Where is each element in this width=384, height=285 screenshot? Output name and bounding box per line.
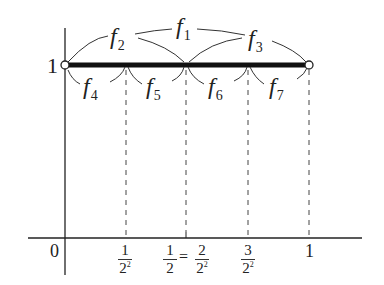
arc-f1-left xyxy=(135,29,172,34)
arc-f6-right xyxy=(234,67,247,81)
arc-f7-left xyxy=(250,67,264,84)
label-f1: f1 xyxy=(176,14,191,38)
label-f4: f4 xyxy=(83,74,98,98)
open-endpoint-left xyxy=(61,61,69,69)
tick-label-one-quarter: 122 xyxy=(118,243,132,276)
label-f3: f3 xyxy=(248,26,263,50)
arc-f7-right xyxy=(297,68,307,79)
arc-f2 xyxy=(68,36,108,62)
label-f5: f5 xyxy=(146,74,161,98)
tick-label-two-quarters: 222 xyxy=(195,243,209,276)
arc-f4-right xyxy=(110,67,125,82)
origin-label: 0 xyxy=(50,242,59,260)
equals-sign: = xyxy=(179,248,188,266)
tick-label-one-half: 12 xyxy=(163,243,177,276)
arc-f1-right xyxy=(197,29,245,35)
y-axis-label-one: 1 xyxy=(47,55,58,77)
label-f6: f6 xyxy=(208,74,223,98)
tick-label-one: 1 xyxy=(305,242,314,260)
open-endpoint-right xyxy=(305,61,313,69)
arc-f5-right xyxy=(172,67,184,81)
arc-f5-left xyxy=(128,67,142,84)
arc-f4-left xyxy=(68,70,80,84)
label-f2: f2 xyxy=(110,24,125,48)
arc-f3-right xyxy=(272,41,306,62)
arc-f6-left xyxy=(188,67,204,84)
arc-f3-left xyxy=(189,38,242,62)
arc-f2-right xyxy=(138,38,184,62)
tick-label-three-quarters: 322 xyxy=(241,243,255,276)
label-f7: f7 xyxy=(269,74,284,98)
